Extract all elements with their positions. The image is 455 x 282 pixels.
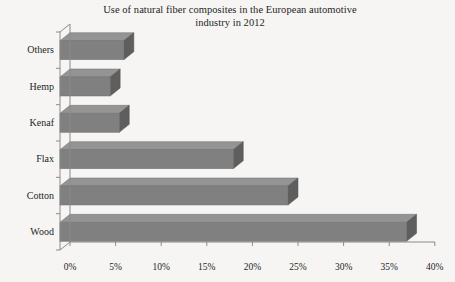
x-axis-tick-20: 20%: [232, 262, 272, 273]
x-axis-tick-25: 25%: [278, 262, 318, 273]
x-axis-tick-30: 30%: [324, 262, 364, 273]
x-axis-tick-35: 35%: [369, 262, 409, 273]
x-axis-tick-40: 40%: [415, 262, 455, 273]
x-axis-tick-5: 5%: [96, 262, 136, 273]
x-axis-tick-15: 15%: [187, 262, 227, 273]
x-axis-tick-0: 0%: [50, 262, 90, 273]
x-axis-tick-10: 10%: [141, 262, 181, 273]
x-axis-labels: 0%5%10%15%20%25%30%35%40%: [0, 0, 455, 282]
bar-chart: Use of natural fiber composites in the E…: [0, 0, 455, 282]
